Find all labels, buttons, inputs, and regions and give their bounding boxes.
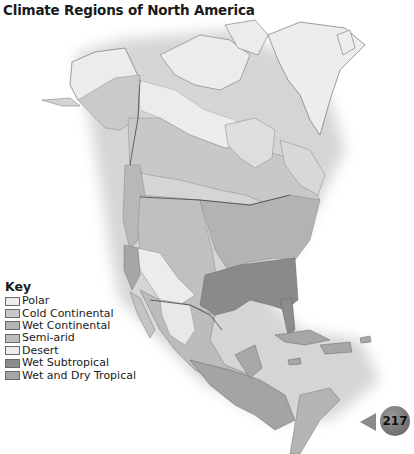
map-key: Key Polar Cold Continental Wet Continent… <box>5 279 136 382</box>
page-indicator: 217 <box>358 406 414 436</box>
key-label: Wet Subtropical <box>22 357 109 369</box>
swatch-desert <box>5 346 20 355</box>
swatch-wet-continental <box>5 321 20 330</box>
key-label: Cold Continental <box>22 308 114 320</box>
swatch-wet-dry-tropical <box>5 371 20 380</box>
key-item-wet-dry-tropical: Wet and Dry Tropical <box>5 369 136 381</box>
key-item-wet-subtropical: Wet Subtropical <box>5 357 136 369</box>
key-label: Semi-arid <box>22 332 75 344</box>
swatch-semi-arid <box>5 334 20 343</box>
arrow-left-icon <box>360 413 376 431</box>
page-number-badge: 217 <box>380 406 410 436</box>
key-label: Polar <box>22 295 49 307</box>
key-label: Desert <box>22 345 59 357</box>
key-title: Key <box>5 279 136 294</box>
key-label: Wet and Dry Tropical <box>22 370 136 382</box>
key-label: Wet Continental <box>22 320 110 332</box>
map-title: Climate Regions of North America <box>3 2 255 18</box>
key-item-polar: Polar <box>5 295 136 307</box>
key-item-semi-arid: Semi-arid <box>5 332 136 344</box>
page-number: 217 <box>382 414 407 428</box>
climate-map <box>0 0 414 454</box>
swatch-polar <box>5 297 20 306</box>
swatch-wet-subtropical <box>5 359 20 368</box>
key-item-wet-continental: Wet Continental <box>5 320 136 332</box>
key-item-cold-continental: Cold Continental <box>5 307 136 319</box>
key-item-desert: Desert <box>5 345 136 357</box>
swatch-cold-continental <box>5 309 20 318</box>
